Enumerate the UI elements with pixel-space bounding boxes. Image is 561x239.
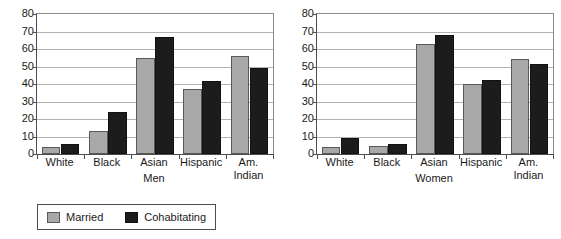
bar-cohabitating-am-indian (530, 64, 549, 154)
y-axis-tick-label-70: 70 (22, 25, 34, 36)
y-axis-tick-50 (33, 67, 37, 68)
bar-group-white (322, 14, 360, 154)
bar-cohabitating-asian (155, 37, 174, 154)
y-axis-tick-80 (33, 14, 37, 15)
y-axis-tick-label-60: 60 (22, 43, 34, 54)
y-axis-tick-30 (33, 102, 37, 103)
bar-married-hispanic (183, 89, 202, 154)
y-axis-tick-label-40: 40 (22, 78, 34, 89)
bar-cohabitating-am-indian (250, 68, 269, 154)
y-axis-tick-label-50: 50 (22, 60, 34, 71)
bar-married-am-indian (231, 56, 250, 154)
bar-group-white (42, 14, 80, 154)
bar-cohabitating-black (388, 144, 407, 154)
y-axis-tick-label-30: 30 (302, 95, 314, 106)
panel-title-men: Men (36, 172, 272, 185)
bar-married-white (42, 147, 61, 154)
y-axis-tick-label-60: 60 (302, 43, 314, 54)
y-axis-tick-70 (33, 32, 37, 33)
y-axis-tick-label-40: 40 (302, 78, 314, 89)
bar-group-am-indian (231, 14, 269, 154)
legend-swatch-cohabitating-icon (125, 212, 138, 223)
bar-cohabitating-asian (435, 35, 454, 154)
y-axis-tick-20 (33, 119, 37, 120)
bar-group-hispanic (463, 14, 501, 154)
chart-legend: Married Cohabitating (37, 204, 216, 230)
y-axis-tick-60 (33, 49, 37, 50)
y-axis-tick-10 (313, 137, 317, 138)
y-axis-tick-label-80: 80 (302, 8, 314, 19)
bar-married-asian (136, 58, 155, 154)
plot-area-men (36, 13, 274, 154)
y-axis-tick-label-20: 20 (22, 113, 34, 124)
y-axis-tick-20 (313, 119, 317, 120)
bar-married-am-indian (511, 59, 530, 154)
y-axis-tick-40 (313, 84, 317, 85)
y-axis-tick-40 (33, 84, 37, 85)
legend-item-married: Married (47, 212, 103, 223)
x-axis-label-asian: Asian (410, 156, 457, 169)
legend-swatch-married-icon (47, 212, 60, 223)
bar-married-black (369, 146, 388, 154)
legend-label-cohabitating: Cohabitating (144, 212, 206, 223)
bar-married-asian (416, 44, 435, 154)
y-axis-tick-label-10: 10 (302, 130, 314, 141)
panel-title-women: Women (316, 172, 552, 185)
bar-cohabitating-white (341, 138, 360, 154)
y-axis-tick-label-70: 70 (302, 25, 314, 36)
x-axis-label-white: White (36, 156, 83, 169)
bar-group-hispanic (183, 14, 221, 154)
chart-panel-women: 01020304050607080 WhiteBlackAsianHispani… (280, 0, 561, 195)
y-axis-tick-60 (313, 49, 317, 50)
bar-cohabitating-hispanic (482, 80, 501, 154)
x-axis-tick-5 (273, 154, 274, 159)
y-axis-tick-30 (313, 102, 317, 103)
y-axis-tick-label-0: 0 (28, 148, 34, 159)
bar-group-asian (416, 14, 454, 154)
legend-item-cohabitating: Cohabitating (125, 212, 206, 223)
bar-group-black (369, 14, 407, 154)
x-axis-label-hispanic: Hispanic (178, 156, 225, 169)
x-axis-label-white: White (316, 156, 363, 169)
y-axis-tick-50 (313, 67, 317, 68)
y-axis-tick-80 (313, 14, 317, 15)
bar-group-am-indian (511, 14, 549, 154)
x-axis-tick-5 (553, 154, 554, 159)
x-axis-label-black: Black (83, 156, 130, 169)
y-axis-tick-label-30: 30 (22, 95, 34, 106)
chart-panel-men: 01020304050607080 WhiteBlackAsianHispani… (0, 0, 281, 195)
bar-married-black (89, 131, 108, 154)
y-axis-tick-label-0: 0 (308, 148, 314, 159)
grouped-bar-chart-figure: 01020304050607080 WhiteBlackAsianHispani… (0, 0, 561, 239)
x-axis-label-hispanic: Hispanic (458, 156, 505, 169)
y-axis-tick-10 (33, 137, 37, 138)
y-axis-tick-label-80: 80 (22, 8, 34, 19)
bar-married-hispanic (463, 84, 482, 154)
bar-cohabitating-white (61, 144, 80, 155)
y-axis-tick-label-10: 10 (22, 130, 34, 141)
legend-label-married: Married (66, 212, 103, 223)
plot-area-women (316, 13, 554, 154)
bar-group-black (89, 14, 127, 154)
y-axis-tick-70 (313, 32, 317, 33)
y-axis-tick-label-20: 20 (302, 113, 314, 124)
bar-cohabitating-hispanic (202, 81, 221, 155)
bar-group-asian (136, 14, 174, 154)
y-axis-tick-labels-men: 01020304050607080 (8, 6, 34, 160)
y-axis-tick-labels-women: 01020304050607080 (288, 6, 314, 160)
bar-cohabitating-black (108, 112, 127, 154)
x-axis-label-asian: Asian (130, 156, 177, 169)
y-axis-tick-label-50: 50 (302, 60, 314, 71)
bar-married-white (322, 147, 341, 154)
x-axis-label-black: Black (363, 156, 410, 169)
